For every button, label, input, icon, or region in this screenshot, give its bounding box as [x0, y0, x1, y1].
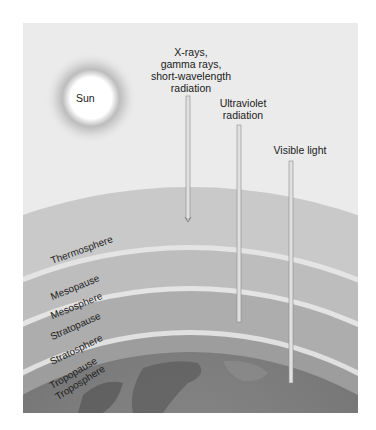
visible-light-arrow — [289, 161, 293, 383]
xray-label-line: short-wavelength — [150, 70, 232, 82]
ultraviolet-label-line: radiation — [213, 109, 273, 121]
ultraviolet-label: Ultraviolet radiation — [213, 97, 273, 121]
atmosphere-diagram: Sun X-rays, gamma rays, short-wavelength… — [23, 23, 358, 413]
xray-label-line: gamma rays, — [150, 58, 232, 70]
sun-label: Sun — [76, 92, 95, 104]
xray-label: X-rays, gamma rays, short-wavelength rad… — [150, 46, 232, 94]
xray-label-line: X-rays, — [150, 46, 232, 58]
ultraviolet-label-line: Ultraviolet — [213, 97, 273, 109]
visible-light-label-line: Visible light — [265, 144, 335, 156]
visible-light-label: Visible light — [265, 144, 335, 156]
xray-arrow — [185, 96, 191, 222]
xray-label-line: radiation — [150, 82, 232, 94]
ultraviolet-arrow — [237, 125, 241, 322]
